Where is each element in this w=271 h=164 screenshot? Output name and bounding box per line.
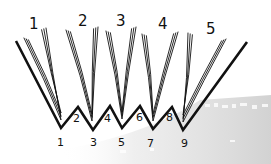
signature-1 [24,28,61,120]
signature-fold-line [28,30,61,113]
valley-label-7: 7 [147,137,154,150]
signature-2 [66,27,98,121]
signature-label-5: 5 [206,20,216,38]
signature-label-2: 2 [78,12,88,30]
peak-label-8: 8 [166,111,173,124]
valley-label-9: 9 [181,137,188,150]
signature-label-1: 1 [29,15,39,33]
peak-label-4: 4 [104,112,111,125]
valley-label-3: 3 [90,136,97,149]
signature-fold-line [144,33,176,118]
signature-label-4: 4 [158,15,168,33]
signature-fold-line [70,29,93,114]
signature-label-3: 3 [116,12,126,30]
signature-diagram: 1 2 3 4 5 1 3 5 7 9 2 4 6 8 [0,0,271,164]
valley-label-1: 1 [57,136,64,149]
valley-label-5: 5 [118,136,125,149]
signature-fold-line [110,29,131,112]
signature-fold-line [146,34,173,114]
peak-label-2: 2 [73,112,80,125]
peak-label-6: 6 [136,111,143,124]
